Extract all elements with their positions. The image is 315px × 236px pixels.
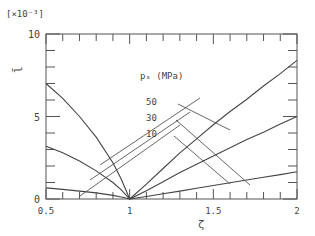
series-group xyxy=(46,60,297,199)
legend: pₛ (MPa) 50 30 10 xyxy=(140,71,183,139)
legend-entry-50: 50 xyxy=(146,97,157,107)
y-tick-labels: 0510 xyxy=(28,29,40,205)
leader-line xyxy=(178,104,230,130)
leader-line xyxy=(90,112,190,180)
x-tick-label: 2 xyxy=(294,206,299,216)
legend-title: pₛ (MPa) xyxy=(140,71,183,81)
y-axis-label: l̄ xyxy=(12,66,25,73)
legend-entry-10: 10 xyxy=(146,129,157,139)
x-ticks xyxy=(46,34,297,199)
x-tick-label: 1.5 xyxy=(205,206,221,216)
y-multiplier-label: [×10⁻³] xyxy=(6,9,44,19)
series-30-mpa xyxy=(46,117,297,200)
x-tick-label: 1 xyxy=(127,206,132,216)
plot-frame xyxy=(46,34,297,199)
y-ticks xyxy=(46,34,297,199)
y-tick-label: 0 xyxy=(34,194,40,205)
x-tick-labels: 0.511.52 xyxy=(38,206,300,216)
legend-leader-lines xyxy=(80,98,250,196)
y-tick-label: 10 xyxy=(28,29,40,40)
leader-line xyxy=(176,120,250,185)
x-axis-label: ζ xyxy=(198,218,205,231)
chart: [×10⁻³] l̄ 0.511.52 0510 pₛ (MPa) 50 30 … xyxy=(0,0,315,236)
y-tick-label: 5 xyxy=(34,112,40,123)
x-tick-label: 0.5 xyxy=(38,206,54,216)
series-10-mpa xyxy=(46,172,297,199)
legend-entry-30: 30 xyxy=(146,113,157,123)
